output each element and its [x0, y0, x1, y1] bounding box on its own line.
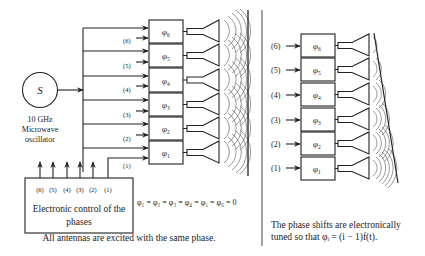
horn-antenna-icon: [183, 69, 219, 91]
phase-shifter-6: φ6: [149, 20, 183, 43]
phased-array-diagram: S 10 GHz Microwave oscillator: [0, 0, 425, 256]
phase-shifter-3: φ3: [149, 93, 183, 116]
input-label-3: (3): [123, 111, 131, 119]
horn-antenna-icon: [183, 141, 219, 163]
control-input-arrows: [108, 38, 148, 178]
left-horn-antennas: [183, 20, 219, 163]
left-panel: S 10 GHz Microwave oscillator: [22, 9, 251, 243]
horn-antenna-icon: [183, 93, 219, 115]
oscillator: S 10 GHz Microwave oscillator: [22, 73, 59, 145]
oscillator-symbol: S: [37, 84, 43, 96]
left-radiated-waves: [224, 9, 251, 174]
horn-antenna-icon: [335, 34, 369, 56]
equal-phase-equation: φ₁ = φ₂ = φ₃ = φ₄ = φ₅ = φ₆ = 0: [137, 198, 237, 207]
horn-antenna-icon: [335, 132, 369, 154]
phase-control-unit: (6) (5) (4) (3) (2) (1) Electronic contr…: [25, 178, 133, 233]
right-horn-antennas: [335, 34, 369, 179]
oscillator-label-1: 10 GHz: [27, 115, 53, 124]
phase-shifter-3: φ3: [301, 108, 335, 131]
phase-shifter-5: φ5: [149, 44, 183, 67]
right-input-label-5: (5): [271, 66, 281, 75]
phase-shifter-1: φ1: [149, 141, 183, 164]
right-input-arrows: (6) (5) (4) (3) (2) (1): [271, 42, 300, 173]
control-box-label-1: Electronic control of the: [33, 204, 126, 214]
control-output-4: (4): [63, 186, 71, 194]
feed-arrows: [83, 28, 148, 148]
right-radiated-waves: [373, 37, 397, 188]
horn-antenna-icon: [335, 157, 369, 179]
input-label-4: (4): [123, 86, 131, 94]
control-output-arrows: [40, 162, 93, 178]
input-label-1: (1): [123, 162, 131, 170]
control-output-6: (6): [36, 186, 44, 194]
input-label-2: (2): [123, 135, 131, 143]
horn-antenna-icon: [335, 108, 369, 130]
right-phase-shifters: φ6 φ5 φ4 φ3 φ2 φ1: [301, 34, 335, 180]
right-tilted-wavefront: [374, 33, 398, 183]
phase-shifter-6: φ6: [301, 34, 335, 57]
right-input-label-1: (1): [271, 164, 281, 173]
right-caption-2: tuned so that φᵢ = (i − 1)f(t).: [271, 232, 377, 243]
horn-antenna-icon: [335, 58, 369, 80]
right-panel: (6) (5) (4) (3) (2) (1) φ6 φ5 φ4 φ3 φ: [271, 33, 401, 243]
control-output-5: (5): [49, 186, 57, 194]
control-output-2: (2): [89, 186, 97, 194]
phase-shifter-1: φ1: [301, 157, 335, 180]
control-input-labels: (6) (5) (4) (3) (2) (1): [123, 37, 131, 170]
phase-shifter-4: φ4: [301, 83, 335, 106]
right-input-label-3: (3): [271, 116, 281, 125]
right-caption-1: The phase shifts are electronically: [271, 220, 401, 230]
horn-antenna-icon: [183, 44, 219, 66]
input-label-6: (6): [123, 37, 131, 45]
left-phase-shifters: φ6 φ5 φ4 φ3 φ2 φ1: [149, 20, 183, 164]
phase-shifter-4: φ4: [149, 68, 183, 92]
input-label-5: (5): [123, 62, 131, 70]
control-output-3: (3): [76, 186, 84, 194]
left-caption: All antennas are excited with the same p…: [42, 233, 215, 243]
horn-antenna-icon: [335, 83, 369, 105]
oscillator-label-3: oscillator: [25, 135, 55, 144]
right-input-label-4: (4): [271, 91, 281, 100]
horn-antenna-icon: [183, 20, 219, 42]
oscillator-label-2: Microwave: [22, 125, 59, 134]
right-input-label-2: (2): [271, 140, 281, 149]
control-box-label-2: phases: [66, 217, 92, 227]
right-input-label-6: (6): [271, 42, 281, 51]
phase-shifter-2: φ2: [149, 117, 183, 140]
phase-shifter-2: φ2: [301, 132, 335, 155]
control-output-1: (1): [104, 186, 112, 194]
phase-shifter-5: φ5: [301, 58, 335, 81]
horn-antenna-icon: [183, 117, 219, 139]
